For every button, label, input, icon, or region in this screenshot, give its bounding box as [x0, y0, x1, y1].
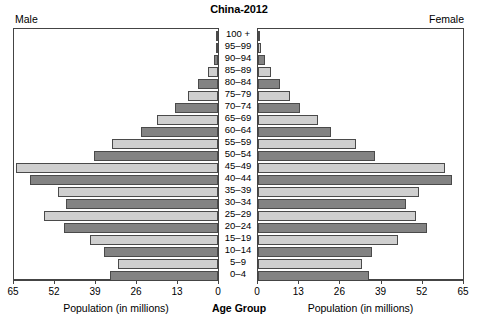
male-bar-row [14, 187, 218, 198]
age-group-label: 65–69 [219, 113, 257, 123]
female-bar-row [258, 91, 463, 102]
axis-tick [339, 280, 340, 284]
age-group-label: 70–74 [219, 101, 257, 111]
male-bar-row [14, 259, 218, 270]
population-pyramid-chart: China-2012 Male Female 100 +95–9990–9485… [0, 0, 478, 320]
male-bar-row [14, 127, 218, 138]
male-bar [118, 259, 218, 270]
female-bar-row [258, 31, 463, 42]
axis-tick [136, 280, 137, 284]
female-bar [258, 127, 331, 138]
age-group-label: 45–49 [219, 161, 257, 171]
axis-tick-label: 26 [324, 286, 354, 297]
male-bar [66, 199, 218, 210]
axis-tick-label: 52 [39, 286, 69, 297]
male-bar [188, 91, 218, 102]
female-axis-title: Population (in millions) [257, 302, 464, 314]
male-plot-panel [13, 28, 219, 280]
male-bar [216, 43, 218, 54]
male-bar [94, 151, 218, 162]
axis-tick [298, 280, 299, 284]
male-bar [141, 127, 218, 138]
age-group-label: 15–19 [219, 233, 257, 243]
female-bar [258, 67, 271, 78]
male-panel-label: Male [15, 13, 38, 25]
male-bar-row [14, 163, 218, 174]
male-bar-row [14, 235, 218, 246]
male-bar-row [14, 55, 218, 66]
male-bar-row [14, 247, 218, 258]
male-bar-row [14, 103, 218, 114]
female-bar [258, 115, 318, 126]
female-bar [258, 139, 356, 150]
male-bar [64, 223, 218, 234]
female-bar [258, 175, 452, 186]
male-axis-line [13, 280, 219, 281]
female-bar [258, 91, 290, 102]
female-panel-label: Female [429, 13, 464, 25]
female-bar [258, 163, 445, 174]
age-group-label: 100 + [219, 29, 257, 39]
male-bar [175, 103, 218, 114]
age-group-label: 50–54 [219, 149, 257, 159]
female-bar-group [258, 29, 463, 279]
axis-tick [257, 280, 258, 284]
axis-tick-label: 0 [242, 286, 272, 297]
male-bar [208, 67, 218, 78]
female-bar [258, 223, 427, 234]
axis-tick-label: 13 [283, 286, 313, 297]
female-bar-row [258, 151, 463, 162]
male-bar-row [14, 91, 218, 102]
female-bar [258, 187, 419, 198]
female-bar [258, 247, 372, 258]
female-bar-row [258, 127, 463, 138]
female-axis-line [257, 280, 464, 281]
axis-tick-label: 39 [80, 286, 110, 297]
axis-tick-label: 26 [121, 286, 151, 297]
female-bar-row [258, 199, 463, 210]
female-bar [258, 103, 300, 114]
female-bar-row [258, 235, 463, 246]
age-group-label: 5–9 [219, 257, 257, 267]
male-bar-row [14, 43, 218, 54]
male-bar-row [14, 67, 218, 78]
axis-tick [422, 280, 423, 284]
male-bar [216, 31, 218, 42]
male-bar [16, 163, 218, 174]
female-bar-row [258, 175, 463, 186]
age-group-label: 55–59 [219, 137, 257, 147]
female-bar-row [258, 139, 463, 150]
age-group-label: 30–34 [219, 197, 257, 207]
female-bar-row [258, 163, 463, 174]
axis-tick-label: 39 [366, 286, 396, 297]
age-group-label: 95–99 [219, 41, 257, 51]
age-group-label: 0–4 [219, 269, 257, 279]
axis-tick [381, 280, 382, 284]
male-bar-row [14, 151, 218, 162]
male-bar [112, 139, 218, 150]
age-group-label: 35–39 [219, 185, 257, 195]
female-bar-row [258, 103, 463, 114]
male-bar [30, 175, 218, 186]
axis-tick [54, 280, 55, 284]
age-group-label: 10–14 [219, 245, 257, 255]
female-bar [258, 31, 260, 42]
male-axis-title: Population (in millions) [13, 302, 219, 314]
male-bar [198, 79, 218, 90]
male-bar-row [14, 115, 218, 126]
female-bar-row [258, 67, 463, 78]
female-bar-row [258, 55, 463, 66]
female-bar [258, 259, 362, 270]
female-bar-row [258, 187, 463, 198]
male-bar [58, 187, 218, 198]
female-bar [258, 79, 280, 90]
male-bar-row [14, 31, 218, 42]
female-bar [258, 235, 398, 246]
female-bar [258, 211, 416, 222]
female-bar-row [258, 223, 463, 234]
female-bar-row [258, 259, 463, 270]
axis-tick [13, 280, 14, 284]
female-bar [258, 151, 375, 162]
axis-tick-label: 52 [407, 286, 437, 297]
male-bar-row [14, 175, 218, 186]
